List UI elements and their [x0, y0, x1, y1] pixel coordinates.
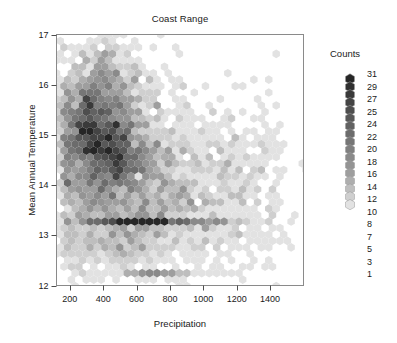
hexbin-cell: [299, 159, 306, 168]
hexbin-cell: [228, 269, 235, 278]
x-tick-label: 600: [129, 294, 144, 304]
legend-count-label: 8: [367, 219, 372, 229]
x-tick-label: 200: [62, 294, 77, 304]
legend-hex-swatch: [346, 199, 355, 209]
y-tick-label: 15: [27, 130, 49, 140]
hexbin-cell: [265, 88, 272, 97]
legend-count-label: 25: [367, 107, 377, 117]
legend-count-label: 1: [367, 269, 372, 279]
legend-count-label: 22: [367, 132, 377, 142]
hexbin-cell: [239, 82, 246, 91]
hexbin-cell: [250, 114, 257, 123]
x-tick-label: 1000: [193, 294, 213, 304]
hexbin-chart-figure: Coast Range Precipitation Mean Annual Te…: [0, 0, 397, 343]
legend-swatches: [346, 74, 355, 210]
legend-count-label: 20: [367, 144, 377, 154]
hexbin-cell: [272, 50, 279, 59]
legend-count-label: 16: [367, 169, 377, 179]
hexbin-cell: [224, 69, 231, 78]
y-tick-label: 16: [27, 80, 49, 90]
hexbin-cell: [239, 108, 246, 117]
y-tick-label: 13: [27, 230, 49, 240]
legend-count-label: 10: [367, 207, 377, 217]
y-tick-label: 14: [27, 180, 49, 190]
legend-count-label: 14: [367, 182, 377, 192]
x-tick-label: 1400: [260, 294, 280, 304]
hexbin-cell: [272, 101, 279, 110]
hexbin-cell: [217, 95, 224, 104]
y-tick-label: 12: [27, 281, 49, 291]
hexbin-cell: [232, 82, 239, 91]
hexbin-cell: [202, 82, 209, 91]
legend-count-label: 18: [367, 157, 377, 167]
hexbin-cell: [250, 75, 257, 84]
legend-count-label: 31: [367, 69, 377, 79]
hexbin-layer: [53, 30, 310, 290]
hexbin-cell: [265, 75, 272, 84]
legend-count-label: 27: [367, 94, 377, 104]
legend-count-label: 7: [367, 232, 372, 242]
hexbin-cell: [191, 88, 198, 97]
legend-count-label: 5: [367, 244, 372, 254]
legend-count-label: 3: [367, 257, 372, 267]
x-tick-label: 800: [162, 294, 177, 304]
hexbin-cell: [272, 282, 279, 291]
legend-count-label: 24: [367, 119, 377, 129]
hexbin-cell: [150, 43, 157, 52]
legend-count-label: 12: [367, 194, 377, 204]
y-tick-label: 17: [27, 30, 49, 40]
legend-title: Counts: [330, 48, 360, 59]
x-tick-label: 400: [96, 294, 111, 304]
legend-count-label: 29: [367, 82, 377, 92]
x-axis-title: Precipitation: [56, 318, 304, 329]
x-tick-label: 1200: [227, 294, 247, 304]
